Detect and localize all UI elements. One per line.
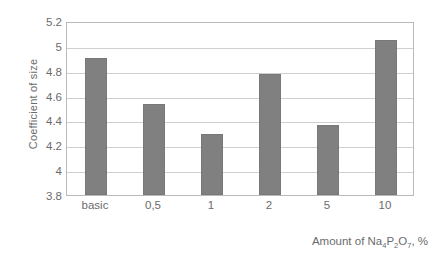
x-axis-title-p: P (386, 235, 394, 247)
x-tick-label: 1 (208, 199, 214, 211)
bar-chart-figure: Coefficient of size 3.844.24.44.64.855.2… (0, 0, 438, 261)
bar (259, 74, 281, 195)
x-axis-title-sub-o: 7 (407, 241, 411, 250)
x-axis-tick-labels: basic0,512510 (66, 199, 414, 217)
y-axis-tick-labels: 3.844.24.44.64.855.2 (30, 22, 62, 196)
x-axis-title-sub-p: 2 (394, 241, 398, 250)
y-tick-label: 4.8 (30, 66, 62, 78)
x-axis-title-sub-na: 4 (382, 241, 386, 250)
bar (85, 58, 107, 195)
x-axis-title-prefix: Amount of Na (312, 235, 382, 247)
bar (317, 125, 339, 195)
bar (375, 40, 397, 195)
y-tick-label: 4 (30, 165, 62, 177)
x-tick-label: 2 (266, 199, 272, 211)
bar (201, 134, 223, 195)
x-tick-label: basic (82, 199, 109, 211)
x-axis-title: Amount of Na4P2O7, % (0, 235, 428, 247)
plot-area (66, 22, 414, 196)
x-axis-title-o: O (398, 235, 407, 247)
y-tick-label: 3.8 (30, 190, 62, 202)
bar-series (67, 23, 413, 195)
x-tick-label: 5 (324, 199, 330, 211)
bar (143, 104, 165, 195)
x-tick-label: 10 (379, 199, 392, 211)
y-tick-label: 5 (30, 41, 62, 53)
x-axis-title-suffix: , % (411, 235, 428, 247)
x-tick-label: 0,5 (145, 199, 161, 211)
y-tick-label: 4.2 (30, 140, 62, 152)
y-tick-label: 4.4 (30, 115, 62, 127)
y-tick-label: 5.2 (30, 16, 62, 28)
y-tick-label: 4.6 (30, 91, 62, 103)
